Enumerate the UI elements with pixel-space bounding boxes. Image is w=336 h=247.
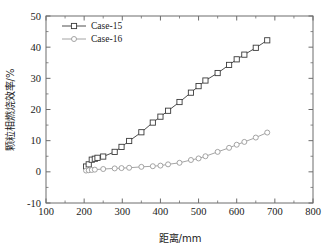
data-point bbox=[265, 38, 270, 43]
data-point bbox=[177, 99, 182, 104]
data-point bbox=[158, 114, 163, 119]
data-point bbox=[101, 167, 106, 172]
data-point bbox=[253, 45, 258, 50]
data-point bbox=[95, 155, 100, 160]
data-point bbox=[112, 149, 117, 154]
x-tick-label: 400 bbox=[153, 206, 169, 217]
data-point bbox=[177, 160, 182, 165]
data-point bbox=[119, 166, 124, 171]
legend-marker-circle bbox=[72, 37, 77, 42]
data-point bbox=[112, 166, 117, 171]
data-point bbox=[139, 130, 144, 135]
x-tick-label: 600 bbox=[229, 206, 245, 217]
data-point bbox=[127, 138, 132, 143]
legend-label: Case-15 bbox=[91, 21, 122, 31]
y-tick-label: -10 bbox=[27, 198, 41, 209]
data-point bbox=[215, 149, 220, 154]
data-point bbox=[203, 154, 208, 159]
x-tick-label: 200 bbox=[76, 206, 92, 217]
data-point bbox=[165, 108, 170, 113]
data-point bbox=[158, 163, 163, 168]
data-point bbox=[215, 70, 220, 75]
data-point bbox=[242, 139, 247, 144]
x-tick-label: 300 bbox=[114, 206, 130, 217]
data-point bbox=[150, 164, 155, 169]
data-point bbox=[150, 120, 155, 125]
data-point bbox=[101, 154, 106, 159]
data-point bbox=[188, 90, 193, 95]
data-point bbox=[234, 142, 239, 147]
chart-figure: 100200300400500600700800 -1001020304050 … bbox=[0, 0, 336, 247]
line-chart: 100200300400500600700800 -1001020304050 … bbox=[0, 0, 336, 247]
data-point bbox=[196, 84, 201, 89]
data-point bbox=[119, 144, 124, 149]
y-tick-label: 20 bbox=[31, 104, 42, 115]
data-point bbox=[196, 156, 201, 161]
x-tick-label: 700 bbox=[267, 206, 283, 217]
data-point bbox=[139, 164, 144, 169]
data-point bbox=[127, 165, 132, 170]
y-tick-label: 30 bbox=[31, 73, 42, 84]
data-point bbox=[242, 52, 247, 57]
data-point bbox=[188, 157, 193, 162]
y-tick-label: 50 bbox=[31, 11, 42, 22]
data-point bbox=[234, 57, 239, 62]
x-axis-title: 距离/mm bbox=[159, 232, 202, 244]
y-tick-label: 10 bbox=[31, 135, 42, 146]
data-point bbox=[227, 145, 232, 150]
data-point bbox=[166, 162, 171, 167]
data-point bbox=[92, 167, 97, 172]
x-tick-label: 800 bbox=[305, 206, 321, 217]
data-point bbox=[265, 130, 270, 135]
data-point bbox=[253, 135, 258, 140]
y-axis-title: 颗粒相燃烧效率/% bbox=[4, 69, 16, 152]
y-tick-label: 40 bbox=[31, 42, 42, 53]
data-point bbox=[226, 62, 231, 67]
data-point bbox=[203, 78, 208, 83]
y-tick-label: 0 bbox=[36, 166, 41, 177]
legend-label: Case-16 bbox=[91, 34, 122, 44]
legend-marker-square bbox=[71, 23, 76, 28]
x-tick-label: 500 bbox=[191, 206, 207, 217]
